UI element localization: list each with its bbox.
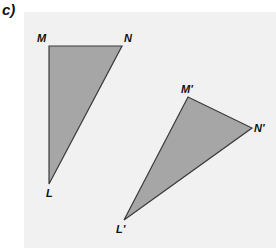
vertex-label-n-prime: N' xyxy=(254,122,265,134)
figure: c) M N L M' N' L' xyxy=(0,0,276,248)
vertex-label-m: M xyxy=(37,32,46,44)
vertex-label-l-prime: L' xyxy=(116,223,125,235)
vertex-label-n: N xyxy=(124,32,132,44)
vertex-label-l: L xyxy=(46,187,53,199)
vertex-label-m-prime: M' xyxy=(181,83,193,95)
triangle-lmn-prime xyxy=(124,97,252,220)
triangle-lmn xyxy=(49,46,122,184)
